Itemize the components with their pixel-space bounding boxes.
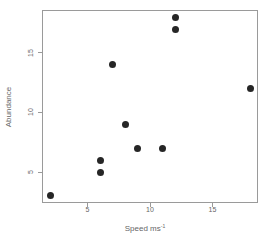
y-axis-tick-label: 15 [27, 43, 35, 63]
data-point [47, 192, 54, 199]
y-axis-tick-label: 10 [27, 102, 35, 122]
y-axis-tick-mark [38, 172, 42, 173]
data-point [247, 85, 254, 92]
x-axis-tick-label: 15 [203, 206, 223, 214]
y-axis-tick-mark [38, 52, 42, 53]
data-point [97, 169, 104, 176]
data-point [159, 145, 166, 152]
x-axis-title-text: Speed ms [125, 224, 161, 233]
plot-area [42, 10, 258, 203]
data-point [122, 121, 129, 128]
y-axis-tick-label: 5 [27, 162, 35, 182]
data-point [134, 145, 141, 152]
x-axis-title-superscript: -1 [161, 223, 165, 229]
data-point [172, 26, 179, 33]
x-axis-tick-label: 10 [140, 206, 160, 214]
data-point [172, 14, 179, 21]
data-point [97, 157, 104, 164]
y-axis-title: Abundance [4, 77, 14, 137]
y-axis-tick-mark [38, 112, 42, 113]
x-axis-tick-label: 5 [78, 206, 98, 214]
x-axis-title: Speed ms-1 [100, 221, 190, 231]
scatter-plot-figure: 5101551015 Abundance Speed ms-1 [0, 0, 271, 244]
